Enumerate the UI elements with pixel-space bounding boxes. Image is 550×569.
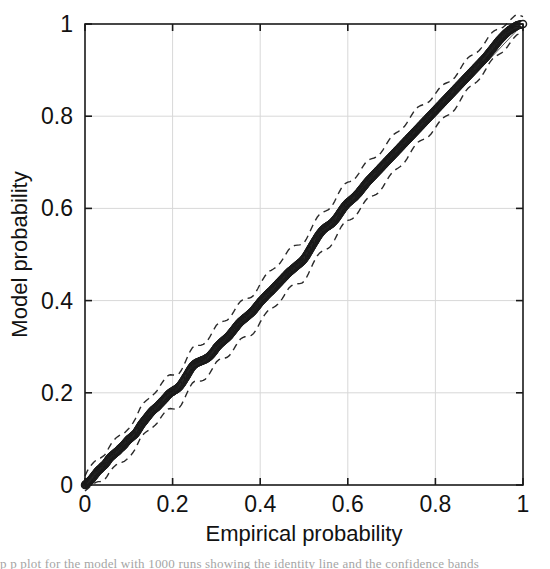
- figure-caption-fragment: p p plot for the model with 1000 runs sh…: [0, 556, 550, 569]
- x-tick-label: 0.8: [419, 491, 451, 517]
- y-tick-label: 0.2: [41, 380, 73, 406]
- y-axis-title: Model probability: [7, 171, 32, 337]
- y-tick-label: 0.4: [41, 288, 73, 314]
- figure-panel: 00.20.40.60.8100.20.40.60.81Empirical pr…: [0, 0, 550, 569]
- pp-plot: 00.20.40.60.8100.20.40.60.81Empirical pr…: [0, 0, 550, 569]
- x-tick-label: 1: [517, 491, 530, 517]
- x-tick-label: 0.4: [244, 491, 276, 517]
- x-tick-label: 0.6: [332, 491, 364, 517]
- y-tick-label: 0.6: [41, 195, 73, 221]
- data-point-group: [82, 21, 527, 489]
- y-tick-label: 0: [60, 472, 73, 498]
- x-tick-label: 0: [79, 491, 92, 517]
- y-tick-label: 0.8: [41, 103, 73, 129]
- x-tick-label: 0.2: [157, 491, 189, 517]
- y-tick-label: 1: [60, 11, 73, 37]
- x-axis-title: Empirical probability: [206, 521, 403, 546]
